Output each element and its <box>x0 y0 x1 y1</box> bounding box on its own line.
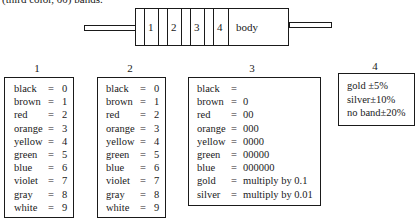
table-row: black= <box>197 82 320 95</box>
color-name: black <box>14 82 48 95</box>
table-row: orange=000 <box>197 122 320 135</box>
equals-sign: = <box>48 188 62 201</box>
table-row: red=2 <box>14 108 73 121</box>
table-row: violet=7 <box>14 174 73 187</box>
equals-sign: = <box>48 95 62 108</box>
digit-value: 9 <box>62 201 67 214</box>
equals-sign: = <box>231 108 243 121</box>
digit-value: 8 <box>154 188 159 201</box>
band-2-table: black=0 brown=1 red=2 orange=3 yellow=4 … <box>97 77 166 218</box>
color-name: blue <box>106 161 140 174</box>
multiplier-value: multiply by 0.1 <box>243 174 307 187</box>
band-divider <box>190 9 191 45</box>
color-name: white <box>14 201 48 214</box>
equals-sign: = <box>231 174 243 187</box>
equals-sign: = <box>231 122 243 135</box>
color-name: red <box>14 108 48 121</box>
equals-sign: = <box>140 201 154 214</box>
resistor-body: 1 2 3 4 body <box>135 8 289 46</box>
body-label: body <box>236 21 258 33</box>
table-2-header: 2 <box>120 62 140 74</box>
equals-sign: = <box>231 82 243 95</box>
band-divider <box>158 9 159 45</box>
table-row: black=0 <box>14 82 73 95</box>
table-row: yellow=4 <box>14 135 73 148</box>
equals-sign: = <box>231 95 243 108</box>
caption-text: (third color, 00) bands. <box>2 0 103 5</box>
left-lead <box>84 25 137 31</box>
band-3-multiplier-table: black= brown=0 red=00 orange=000 yellow=… <box>188 77 321 206</box>
table-row: green=5 <box>106 148 165 161</box>
digit-value: 3 <box>154 122 159 135</box>
tolerance-row: no band±20% <box>347 106 414 120</box>
table-row: yellow=4 <box>106 135 165 148</box>
multiplier-value: 00 <box>243 108 254 121</box>
equals-sign: = <box>231 188 243 201</box>
equals-sign: = <box>140 122 154 135</box>
band-divider <box>204 9 205 45</box>
band-divider <box>213 9 214 45</box>
color-name: brown <box>106 95 140 108</box>
band-divider <box>167 9 168 45</box>
table-row: green=00000 <box>197 148 320 161</box>
digit-value: 0 <box>62 82 67 95</box>
table-row: yellow=0000 <box>197 135 320 148</box>
table-row: green=5 <box>14 148 73 161</box>
color-name: black <box>106 82 140 95</box>
equals-sign: = <box>48 148 62 161</box>
table-row: orange=3 <box>14 122 73 135</box>
table-row: brown=1 <box>14 95 73 108</box>
table-row: brown=1 <box>106 95 165 108</box>
band-divider <box>181 9 182 45</box>
table-row: gray=8 <box>14 188 73 201</box>
equals-sign: = <box>48 201 62 214</box>
equals-sign: = <box>231 148 243 161</box>
equals-sign: = <box>48 135 62 148</box>
multiplier-value: 000000 <box>243 161 275 174</box>
color-name: red <box>197 108 231 121</box>
color-name: orange <box>197 122 231 135</box>
color-name: blue <box>197 161 231 174</box>
equals-sign: = <box>48 161 62 174</box>
color-name: gold <box>197 174 231 187</box>
color-name: yellow <box>14 135 48 148</box>
table-row: gold=multiply by 0.1 <box>197 174 320 187</box>
tolerance-row: gold ±5% <box>347 79 414 93</box>
band-label-1: 1 <box>148 21 154 33</box>
table-row: black=0 <box>106 82 165 95</box>
band-4-tolerance-table: gold ±5% silver±10% no band±20% <box>338 73 415 126</box>
band-label-4: 4 <box>217 21 223 33</box>
color-name: violet <box>106 174 140 187</box>
multiplier-value: 0000 <box>243 135 264 148</box>
table-row: white=9 <box>106 201 165 214</box>
band-divider <box>228 9 229 45</box>
band-divider <box>144 9 145 45</box>
digit-value: 2 <box>154 108 159 121</box>
digit-value: 7 <box>62 174 67 187</box>
equals-sign: = <box>140 148 154 161</box>
equals-sign: = <box>140 135 154 148</box>
table-4-header: 4 <box>365 60 385 72</box>
color-name: yellow <box>197 135 231 148</box>
color-name: brown <box>14 95 48 108</box>
digit-value: 7 <box>154 174 159 187</box>
color-name: green <box>14 148 48 161</box>
multiplier-value: 0 <box>243 95 248 108</box>
digit-value: 4 <box>62 135 67 148</box>
color-name: gray <box>106 188 140 201</box>
band-label-2: 2 <box>171 21 177 33</box>
equals-sign: = <box>48 122 62 135</box>
color-name: black <box>197 82 231 95</box>
table-row: orange=3 <box>106 122 165 135</box>
color-name: orange <box>106 122 140 135</box>
digit-value: 1 <box>154 95 159 108</box>
equals-sign: = <box>140 174 154 187</box>
equals-sign: = <box>140 95 154 108</box>
digit-value: 9 <box>154 201 159 214</box>
digit-value: 1 <box>62 95 67 108</box>
multiplier-value: 00000 <box>243 148 269 161</box>
equals-sign: = <box>48 174 62 187</box>
color-name: green <box>197 148 231 161</box>
table-1-header: 1 <box>27 62 47 74</box>
table-row: silver=multiply by 0.01 <box>197 188 320 201</box>
